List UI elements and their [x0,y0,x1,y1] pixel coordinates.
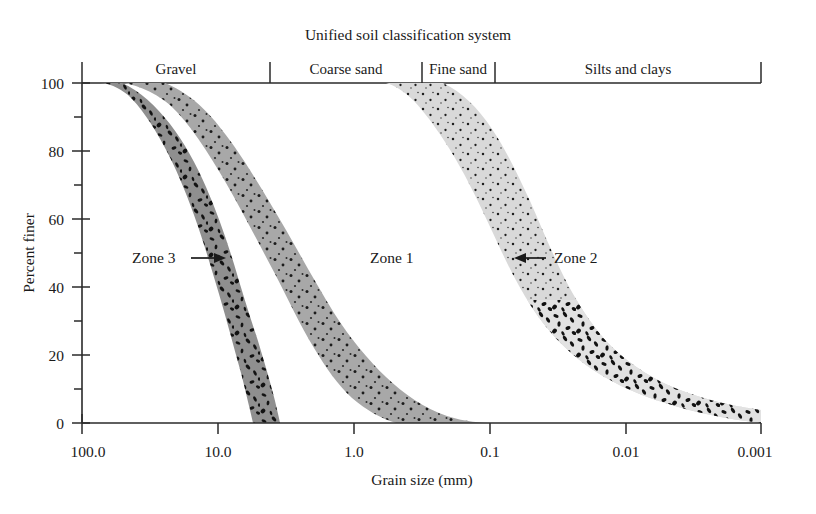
chart-title: Unified soil classification system [305,26,511,43]
y-tick-label-0: 0 [56,415,64,432]
zone1-label: Zone 1 [370,249,413,266]
classification-label-fine-sand: Fine sand [429,61,487,77]
x-axis-title: Grain size (mm) [371,471,473,489]
y-tick-label-100: 100 [41,75,65,92]
zone3-label: Zone 3 [132,249,176,266]
grain-size-distribution-figure: Unified soil classification system Grave… [0,0,816,514]
chart-canvas: Unified soil classification system Grave… [0,0,816,514]
zone3-band [82,83,280,423]
x-tick-label-0.01: 0.01 [612,443,639,460]
y-tick-label-20: 20 [49,347,65,364]
x-tick-label-0.001: 0.001 [738,443,773,460]
y-tick-label-80: 80 [49,143,65,160]
classification-band-axis: Gravel Coarse sand Fine sand Silts and c… [82,61,761,83]
zone2-fleck-region [518,300,761,424]
x-tick-label-0.1: 0.1 [480,443,499,460]
y-tick-label-60: 60 [49,211,65,228]
y-tick-label-40: 40 [49,279,65,296]
zone2-tail-flecks [518,300,761,424]
y-axis-title: Percent finer [20,212,37,292]
data-bands [82,83,761,424]
zone2-label: Zone 2 [554,249,597,266]
axes: 100 80 60 40 20 0 100.0 10.0 1.0 0.1 0.0… [20,75,772,489]
classification-label-silts-and-clays: Silts and clays [585,61,672,77]
classification-label-coarse-sand: Coarse sand [310,61,383,77]
classification-label-gravel: Gravel [156,61,197,77]
x-tick-label-100: 100.0 [71,443,106,460]
x-tick-label-10: 10.0 [204,443,231,460]
x-tick-label-1: 1.0 [344,443,364,460]
